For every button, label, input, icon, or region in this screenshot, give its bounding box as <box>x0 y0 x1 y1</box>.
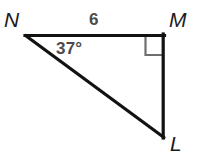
right-angle-marker-icon <box>146 37 164 56</box>
triangle-side-ln <box>26 36 165 138</box>
vertex-label-n: N <box>4 9 19 30</box>
geometry-figure: N M L 6 37° <box>0 0 201 161</box>
vertex-label-m: M <box>169 9 187 30</box>
angle-measure-label-n: 37° <box>56 40 82 57</box>
side-length-label-nm: 6 <box>89 11 98 28</box>
vertex-label-l: L <box>170 133 182 154</box>
